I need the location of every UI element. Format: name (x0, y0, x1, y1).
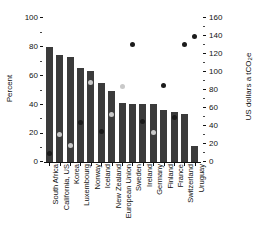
y-axis-label-left: Percent (5, 59, 14, 119)
ytick-mark-left-60 (40, 75, 43, 76)
x-axis-label: Korea (73, 164, 81, 184)
x-axis-label: Finland (167, 164, 175, 189)
x-axis-label: Uruguay (198, 164, 206, 192)
scatter-point (192, 34, 197, 39)
ytick-mark-right-40 (203, 125, 206, 126)
x-axis-label: Switzerland (187, 164, 195, 203)
ytick-mark-left-80 (40, 46, 43, 47)
ytick-right-120: 120 (209, 49, 235, 58)
scatter-point (161, 83, 166, 88)
xtick-mark (174, 163, 175, 166)
scatter-point (120, 84, 125, 89)
ytick-mark-right-70 (203, 98, 205, 99)
x-axis-label: South Africa (52, 164, 60, 204)
ytick-mark-right-20 (203, 143, 206, 144)
bar (160, 110, 167, 162)
ytick-mark-right-10 (203, 152, 205, 153)
scatter-point (78, 120, 83, 125)
ytick-mark-right-50 (203, 116, 205, 117)
xtick-mark (112, 163, 113, 166)
ytick-right-0: 0 (209, 157, 235, 166)
x-axis-label: Germany (156, 164, 164, 195)
x-axis-tick-labels: South AfricaCalifornia, USKoreaLuxembour… (44, 164, 204, 236)
ytick-mark-left-20 (40, 133, 43, 134)
ytick-mark-right-130 (203, 44, 205, 45)
bar (98, 83, 105, 162)
ytick-mark-left-10 (40, 147, 42, 148)
xtick-mark (195, 163, 196, 166)
ytick-mark-left-30 (40, 118, 42, 119)
ytick-mark-right-120 (203, 53, 206, 54)
xtick-mark (164, 163, 165, 166)
scatter-point (99, 129, 104, 134)
bar (56, 55, 63, 162)
ytick-mark-left-100 (40, 17, 43, 18)
x-axis-label: New Zealand (115, 164, 123, 208)
bar (129, 104, 136, 162)
ytick-right-160: 160 (209, 13, 235, 22)
bar (181, 114, 188, 162)
ytick-left-20: 20 (14, 128, 38, 137)
bar (77, 68, 84, 162)
ytick-mark-right-90 (203, 80, 205, 81)
x-axis-label: Luxembourg (83, 164, 91, 206)
scatter-point (130, 42, 135, 47)
scatter-point (151, 130, 156, 135)
ytick-mark-left-40 (40, 104, 43, 105)
x-axis-label: Norway (94, 164, 102, 189)
x-axis-label: Sweden (135, 164, 143, 191)
ytick-mark-right-160 (203, 17, 206, 18)
xtick-mark (184, 163, 185, 166)
scatter-point (172, 115, 177, 120)
ytick-mark-right-30 (203, 134, 205, 135)
ytick-right-80: 80 (209, 85, 235, 94)
ytick-mark-right-0 (203, 161, 206, 162)
bar (191, 146, 198, 162)
scatter-point (109, 112, 114, 117)
scatter-point (47, 151, 52, 156)
bar (108, 91, 115, 162)
x-axis-label: California, US (63, 164, 71, 210)
ytick-right-60: 60 (209, 103, 235, 112)
ytick-mark-right-110 (203, 62, 205, 63)
ytick-right-100: 100 (209, 67, 235, 76)
ytick-mark-left-70 (40, 61, 42, 62)
ytick-left-100: 100 (14, 13, 38, 22)
ytick-mark-right-100 (203, 71, 206, 72)
ytick-mark-left-90 (40, 32, 42, 33)
xtick-mark (132, 163, 133, 166)
ytick-left-80: 80 (14, 42, 38, 51)
x-axis-label: Iceland (104, 164, 112, 188)
scatter-point (57, 132, 62, 137)
xtick-mark (49, 163, 50, 166)
ytick-right-140: 140 (209, 31, 235, 40)
x-axis-label: France (177, 164, 185, 187)
bar (46, 47, 53, 162)
ytick-mark-right-150 (203, 26, 205, 27)
ytick-mark-left-0 (40, 161, 43, 162)
xtick-mark (101, 163, 102, 166)
x-axis-label: European Union (125, 164, 133, 218)
xtick-mark (80, 163, 81, 166)
scatter-point (68, 143, 73, 148)
bar (139, 104, 146, 162)
xtick-mark (60, 163, 61, 166)
ytick-mark-right-140 (203, 35, 206, 36)
ytick-right-20: 20 (209, 139, 235, 148)
x-axis-label: Ireland (146, 164, 154, 187)
ytick-right-40: 40 (209, 121, 235, 130)
xtick-mark (143, 163, 144, 166)
y-axis-label-right: US dollars a tCO2e (244, 51, 253, 123)
xtick-mark (70, 163, 71, 166)
ytick-mark-right-80 (203, 89, 206, 90)
chart-container: Percent US dollars a tCO2e 100 80 60 40 … (0, 0, 254, 236)
ytick-left-40: 40 (14, 100, 38, 109)
xtick-mark (91, 163, 92, 166)
bar (119, 103, 126, 162)
ytick-left-60: 60 (14, 71, 38, 80)
xtick-mark (153, 163, 154, 166)
scatter-point (182, 42, 187, 47)
ytick-mark-right-60 (203, 107, 206, 108)
plot-area (44, 18, 200, 162)
xtick-mark (122, 163, 123, 166)
